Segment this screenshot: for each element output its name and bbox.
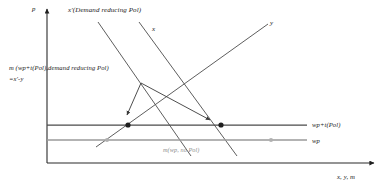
annotation-m-policy-line1: m (wp+t(Pol),demand reducing Pol) <box>9 65 109 72</box>
marker-eq-right-gray <box>269 138 273 142</box>
diagram-vector-layer <box>0 0 385 190</box>
curve-x <box>139 22 237 156</box>
curve-label-x-prime: x'(Demand reducing Pol) <box>68 7 141 14</box>
y-axis-label: p <box>32 5 36 12</box>
leader-arrow-left <box>127 83 141 115</box>
leader-arrow-right <box>141 83 210 120</box>
annotation-m-no-policy: m(wp, no Pol) <box>163 147 200 154</box>
annotation-m-policy-line2: =x'-y <box>9 76 109 83</box>
diagram-canvas: p x, y, m x'(Demand reducing Pol) x y m … <box>0 0 385 190</box>
marker-eq-right-dark <box>218 122 223 127</box>
price-line-label-wp: wp <box>312 138 320 145</box>
curve-label-y: y <box>270 20 273 27</box>
curve-y <box>96 24 268 147</box>
x-axis-label: x, y, m <box>337 173 355 180</box>
price-line-label-wp-plus-t: wp+t(Pol) <box>312 122 340 129</box>
marker-eq-left-dark <box>125 122 130 127</box>
marker-eq-left-gray <box>105 138 109 142</box>
annotation-m-policy: m (wp+t(Pol),demand reducing Pol) =x'-y <box>9 65 109 83</box>
curve-label-x: x <box>152 26 155 33</box>
